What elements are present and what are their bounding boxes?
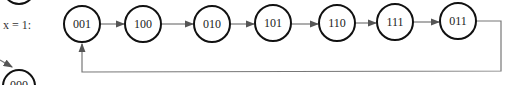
svg-text:111: 111: [386, 15, 403, 29]
state-diagram: x = 1: 000 001 100 010 101 110 111: [0, 0, 506, 85]
svg-text:011: 011: [449, 14, 467, 28]
node-010: 010: [194, 6, 230, 42]
node-110: 110: [319, 5, 355, 41]
partial-node-bottom: 000: [0, 60, 35, 85]
svg-text:110: 110: [328, 16, 346, 30]
partial-node-top: [3, 0, 35, 4]
condition-label: x = 1:: [3, 18, 31, 32]
node-111: 111: [377, 4, 413, 40]
svg-text:100: 100: [134, 17, 152, 31]
node-100: 100: [125, 6, 161, 42]
svg-text:001: 001: [73, 17, 91, 31]
node-101: 101: [255, 5, 291, 41]
svg-text:101: 101: [264, 16, 282, 30]
svg-text:010: 010: [203, 17, 221, 31]
node-011: 011: [440, 3, 476, 39]
svg-text:000: 000: [10, 78, 28, 85]
node-001: 001: [64, 6, 100, 42]
